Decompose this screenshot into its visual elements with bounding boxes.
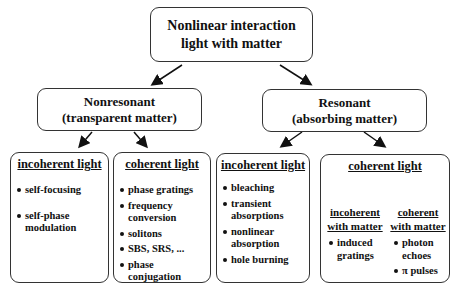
- list-item: π pulses: [393, 265, 449, 278]
- nr-incoherent-list: self-focusing self-phase modulation: [16, 184, 108, 235]
- list-item: phase conjugation: [119, 259, 198, 284]
- r-incoherent-title: incoherent light: [217, 158, 309, 173]
- coherent-with-matter: coherent with matter photon echoes π pul…: [387, 205, 449, 281]
- r-incoherent-node: incoherent light bleaching transient abs…: [216, 153, 310, 283]
- r-coherent-node: coherent light incoherent with matter in…: [320, 154, 450, 283]
- incoherent-with-matter: incoherent with matter induced gratings: [324, 205, 386, 265]
- nr-incoherent-title: incoherent light: [11, 157, 108, 172]
- resonant-line1: Resonant: [263, 95, 426, 111]
- nonresonant-node: Nonresonant (transparent matter): [37, 88, 202, 131]
- r-incoherent-list: bleaching transient absorptions nonlinea…: [222, 182, 309, 266]
- root-line1: Nonlinear interaction: [151, 17, 312, 35]
- list-item: photon echoes: [393, 237, 447, 262]
- nonresonant-line2: (transparent matter): [38, 110, 201, 126]
- resonant-node: Resonant (absorbing matter): [262, 89, 427, 132]
- nr-coherent-node: coherent light phase gratings frequency …: [113, 152, 211, 283]
- list-item: frequency conversion: [119, 200, 198, 225]
- nonresonant-line1: Nonresonant: [38, 94, 201, 110]
- nr-incoherent-node: incoherent light self-focusing self-phas…: [10, 152, 109, 283]
- list-item: self-phase modulation: [16, 210, 95, 235]
- root-node: Nonlinear interaction light with matter: [150, 7, 313, 62]
- list-item: induced gratings: [328, 237, 389, 262]
- list-item: transient absorptions: [222, 198, 306, 223]
- r-coherent-title: coherent light: [321, 159, 449, 174]
- list-item: nonlinear absorption: [222, 226, 306, 251]
- nr-coherent-list: phase gratings frequency conversion soli…: [119, 184, 210, 284]
- list-item: SBS, SRS, ...: [119, 243, 210, 256]
- list-item: bleaching: [222, 182, 309, 195]
- list-item: self-focusing: [16, 184, 108, 197]
- list-item: solitons: [119, 228, 210, 241]
- resonant-line2: (absorbing matter): [263, 111, 426, 127]
- list-item: hole burning: [222, 254, 291, 267]
- nr-coherent-title: coherent light: [114, 157, 210, 172]
- root-line2: light with matter: [151, 35, 312, 53]
- list-item: phase gratings: [119, 184, 210, 197]
